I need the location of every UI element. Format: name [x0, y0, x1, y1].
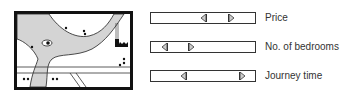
map-view[interactable]: [14, 11, 133, 90]
price-label: Price: [265, 12, 288, 24]
journey-time-label: Journey time: [265, 70, 322, 82]
map-illustration: [14, 11, 133, 90]
bedrooms-slider[interactable]: [150, 41, 256, 53]
price-slider[interactable]: [150, 12, 256, 24]
bedrooms-label: No. of bedrooms: [265, 41, 339, 53]
bedrooms-min-handle[interactable]: [161, 43, 169, 51]
journey-max-handle[interactable]: [238, 72, 246, 80]
price-min-handle[interactable]: [200, 14, 208, 22]
journey-min-handle[interactable]: [180, 72, 188, 80]
journey-time-slider[interactable]: [150, 70, 256, 82]
price-max-handle[interactable]: [227, 14, 235, 22]
bedrooms-max-handle[interactable]: [187, 43, 195, 51]
